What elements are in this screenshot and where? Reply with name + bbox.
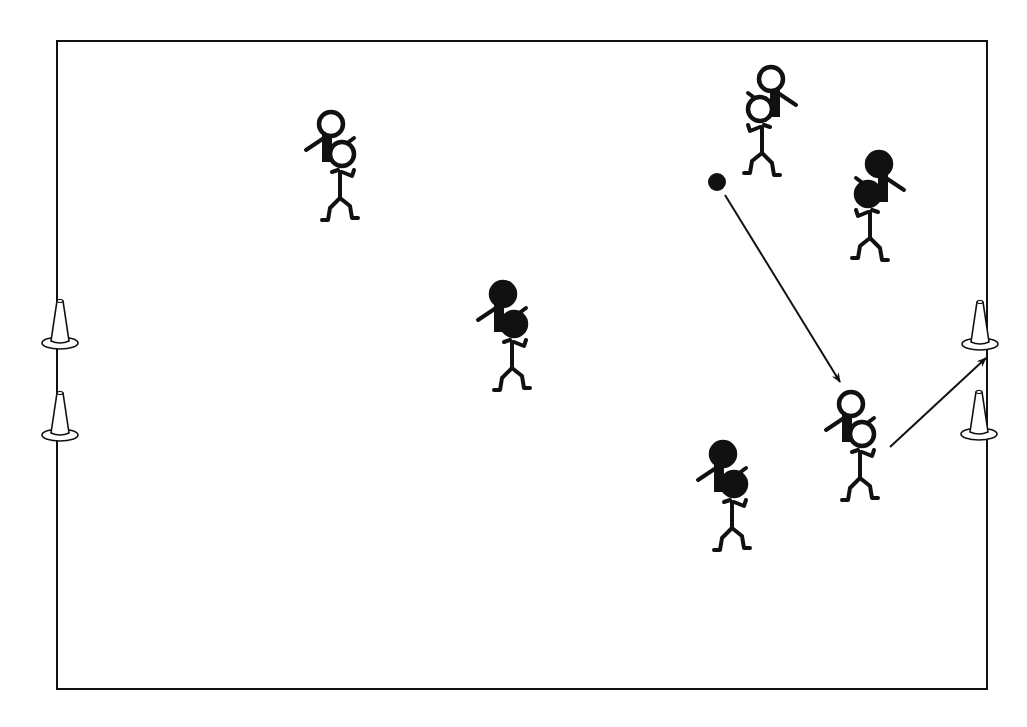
cone-icon: [961, 391, 997, 441]
player-pair-white: [826, 392, 878, 500]
cone-icon: [42, 300, 78, 350]
players: [306, 67, 904, 550]
player-pair-black: [852, 152, 904, 260]
arrow-pass: [725, 195, 840, 382]
ball-icon: [708, 173, 726, 191]
player-pair-white: [744, 67, 796, 175]
player-pair-black: [478, 282, 530, 390]
drill-diagram: [0, 0, 1027, 727]
cone-icon: [42, 392, 78, 442]
field-boundary: [57, 41, 987, 689]
player-pair-white: [306, 112, 358, 220]
cone-icon: [962, 301, 998, 351]
player-pair-black: [698, 442, 750, 550]
